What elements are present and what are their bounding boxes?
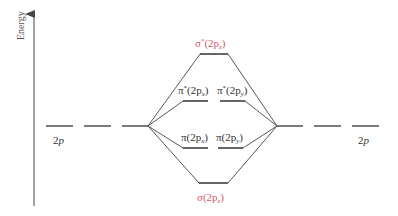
sigma-star-label: σ*(2pz)	[195, 37, 226, 51]
correlation-lines	[148, 54, 277, 183]
energy-axis: Energy	[15, 11, 34, 206]
right-2p-label: 2p	[358, 134, 370, 146]
pi-x-label: π(2px)	[181, 131, 208, 145]
pi-star-y-label: π*(2py)	[217, 84, 248, 98]
pi-y-label: π(2py)	[216, 131, 243, 145]
pi-star-x-label: π*(2px)	[178, 84, 209, 98]
energy-axis-label: Energy	[15, 11, 26, 40]
left-2p-label: 2p	[53, 134, 65, 146]
mo-diagram: Energy 2p 2p σ*(2pz) π*(2px) π*(2py)	[0, 0, 398, 216]
sigma-label: σ(2pz)	[197, 191, 224, 205]
